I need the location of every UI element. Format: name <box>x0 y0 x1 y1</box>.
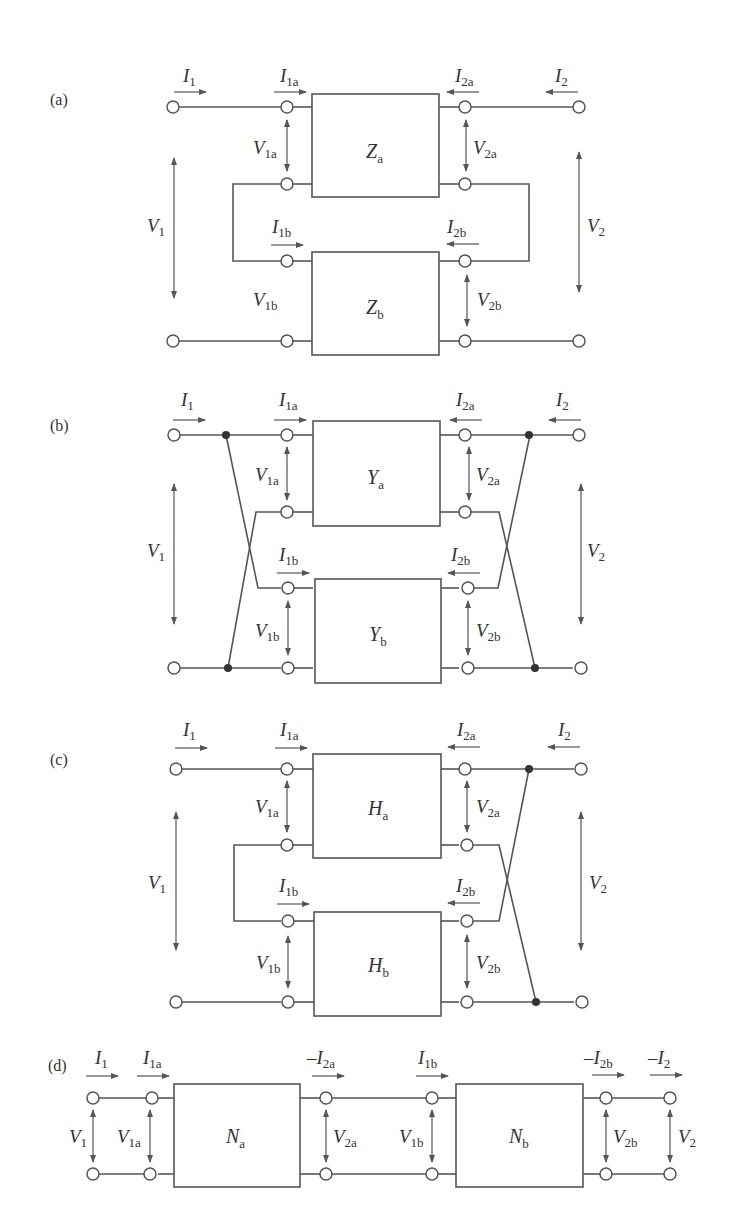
svg-text:V1b: V1b <box>255 620 280 644</box>
svg-text:I1: I1 <box>94 1047 108 1071</box>
junction-dot <box>525 431 533 439</box>
panel-d-tag: (d) <box>48 1057 67 1075</box>
svg-text:V1: V1 <box>148 872 166 896</box>
svg-text:V2b: V2b <box>613 1126 638 1150</box>
svg-text:I1: I1 <box>180 389 194 413</box>
svg-text:V1: V1 <box>147 215 165 239</box>
svg-text:–I2: –I2 <box>647 1047 670 1071</box>
svg-text:I2b: I2b <box>446 216 466 240</box>
svg-text:I2: I2 <box>557 719 571 743</box>
panel-b: (b) Ya Yb <box>50 389 605 683</box>
svg-text:I1b: I1b <box>278 875 298 899</box>
svg-text:V1a: V1a <box>255 464 279 488</box>
svg-text:I1b: I1b <box>271 216 291 240</box>
svg-text:I1a: I1a <box>279 719 299 743</box>
svg-text:V1b: V1b <box>399 1126 424 1150</box>
svg-text:I2: I2 <box>554 65 568 89</box>
svg-text:V1b: V1b <box>256 952 281 976</box>
svg-text:I2a: I2a <box>455 389 475 413</box>
svg-text:V2a: V2a <box>333 1126 357 1150</box>
panel-c: (c) Ha Hb <box>50 719 607 1016</box>
svg-text:–I2b: –I2b <box>583 1047 613 1071</box>
svg-text:I2b: I2b <box>455 875 475 899</box>
svg-text:V1a: V1a <box>117 1126 141 1150</box>
svg-text:V1a: V1a <box>253 137 277 161</box>
panel-d: (d) Na Nb <box>48 1047 696 1187</box>
svg-text:I1: I1 <box>182 719 196 743</box>
svg-text:I1b: I1b <box>417 1047 437 1071</box>
panel-b-tag: (b) <box>50 417 69 435</box>
svg-text:V2: V2 <box>678 1126 696 1150</box>
junction-dot <box>222 431 230 439</box>
svg-text:I2a: I2a <box>454 65 474 89</box>
svg-text:V2a: V2a <box>473 137 497 161</box>
svg-text:V2: V2 <box>587 215 605 239</box>
junction-dot <box>224 664 232 672</box>
two-port-interconnection-diagram: (a) Za Zb <box>0 0 737 1225</box>
svg-text:I2: I2 <box>555 389 569 413</box>
svg-text:I1a: I1a <box>278 389 298 413</box>
svg-text:I2b: I2b <box>450 544 470 568</box>
junction-dot <box>525 765 533 773</box>
svg-text:V2: V2 <box>587 540 605 564</box>
svg-text:I1a: I1a <box>279 65 299 89</box>
svg-text:V1a: V1a <box>255 796 279 820</box>
svg-text:V2a: V2a <box>476 464 500 488</box>
panel-a-tag: (a) <box>50 91 68 109</box>
svg-text:I1b: I1b <box>278 544 298 568</box>
svg-text:V2b: V2b <box>477 289 502 313</box>
svg-text:V2b: V2b <box>476 952 501 976</box>
junction-dot <box>532 998 540 1006</box>
panel-a: (a) Za Zb <box>50 65 605 355</box>
svg-text:V1: V1 <box>147 540 165 564</box>
svg-text:–I2a: –I2a <box>306 1047 335 1071</box>
svg-text:V2: V2 <box>589 872 607 896</box>
svg-text:V2a: V2a <box>476 796 500 820</box>
svg-text:I1: I1 <box>182 65 196 89</box>
junction-dot <box>531 664 539 672</box>
svg-text:V2b: V2b <box>476 620 501 644</box>
svg-text:V1b: V1b <box>253 289 278 313</box>
svg-text:V1: V1 <box>69 1126 87 1150</box>
panel-c-tag: (c) <box>50 751 68 769</box>
svg-text:I1a: I1a <box>142 1047 162 1071</box>
svg-text:I2a: I2a <box>456 719 476 743</box>
